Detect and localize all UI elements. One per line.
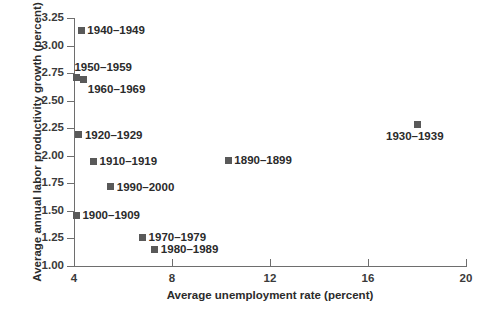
y-tick-mark (67, 128, 75, 129)
y-tick-mark (67, 156, 75, 157)
data-point-marker (90, 158, 97, 165)
x-tick-label: 20 (446, 272, 486, 284)
data-point-label: 1980–1989 (161, 243, 219, 255)
x-axis-title: Average unemployment rate (percent) (74, 289, 466, 301)
data-point-label: 1920–1929 (85, 129, 143, 141)
data-point-label: 1960–1969 (88, 83, 146, 95)
data-point-label: 1940–1949 (87, 24, 145, 36)
data-point-marker (414, 121, 421, 128)
x-tick-mark (466, 259, 467, 267)
data-point-label: 1890–1899 (234, 154, 292, 166)
x-tick-mark (368, 259, 369, 267)
y-tick-mark (67, 183, 75, 184)
x-tick-label: 12 (250, 272, 290, 284)
x-tick-mark (74, 259, 75, 267)
data-point-label: 1950–1959 (74, 61, 132, 73)
data-point-marker (80, 76, 87, 83)
y-tick-mark (67, 101, 75, 102)
x-tick-mark (270, 259, 271, 267)
data-point-marker (107, 183, 114, 190)
x-tick-label: 16 (348, 272, 388, 284)
scatter-chart: 1.001.251.501.752.002.252.502.753.003.25… (0, 0, 487, 313)
x-tick-label: 8 (152, 272, 192, 284)
y-tick-mark (67, 238, 75, 239)
data-point-marker (225, 157, 232, 164)
y-tick-mark (67, 18, 75, 19)
y-axis-title: Average annual labor productivity growth… (31, 2, 43, 282)
x-tick-mark (172, 259, 173, 267)
data-point-label: 1990–2000 (117, 181, 175, 193)
y-tick-mark (67, 46, 75, 47)
x-tick-label: 4 (54, 272, 94, 284)
data-point-marker (151, 246, 158, 253)
data-point-label: 1910–1919 (100, 155, 158, 167)
data-point-marker (78, 27, 85, 34)
data-point-label: 1930–1939 (386, 130, 444, 142)
data-point-label: 1900–1909 (82, 209, 140, 221)
data-point-label: 1970–1979 (149, 231, 207, 243)
data-point-marker (73, 74, 80, 81)
y-axis-line (74, 18, 75, 267)
data-point-marker (75, 131, 82, 138)
data-point-marker (139, 234, 146, 241)
data-point-marker (73, 212, 80, 219)
